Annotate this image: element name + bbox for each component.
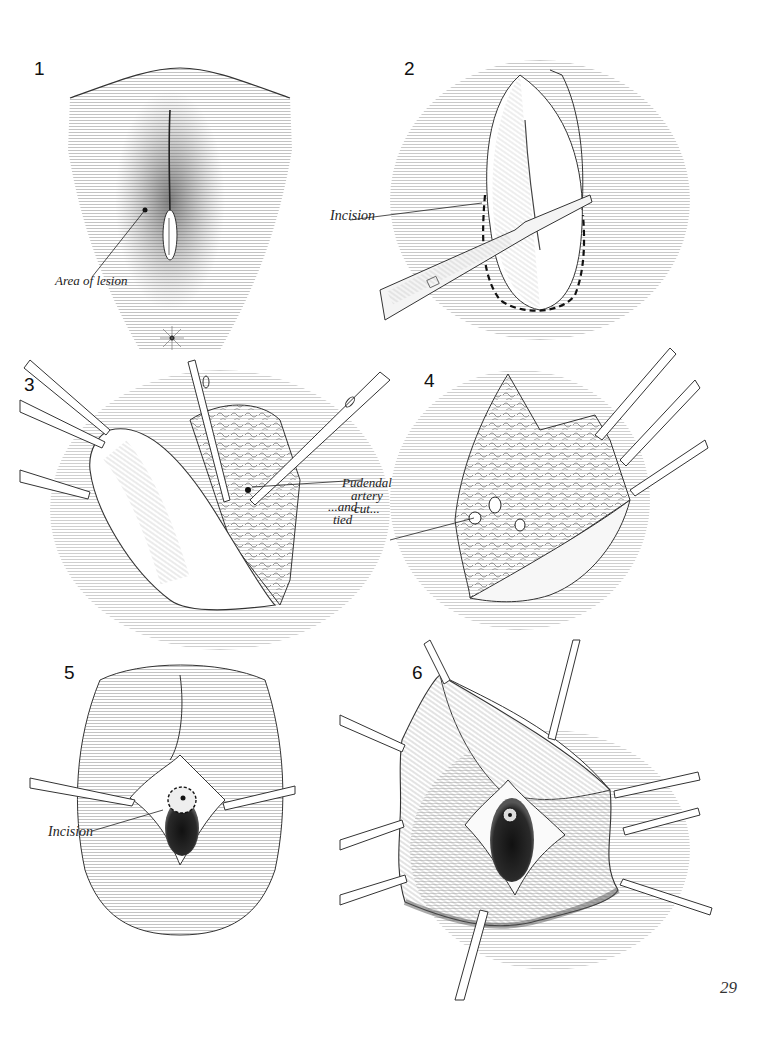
incision-label: Incision	[330, 209, 375, 222]
tied-label: tied	[328, 513, 357, 526]
and-tied-label: ...and tied	[328, 500, 357, 526]
figure-2: 2 Incision	[390, 50, 690, 350]
figure-4: 4 ...and tied	[390, 340, 730, 640]
figure-1: 1 Area of lesion	[30, 50, 330, 350]
ligation-illustration	[390, 340, 730, 640]
figure-5: 5 Incision	[30, 650, 330, 950]
area-of-lesion-label: Area of lesion	[55, 274, 127, 287]
incision-illustration	[390, 50, 690, 350]
perineal-illustration	[30, 650, 330, 950]
figure-6: 6	[340, 640, 740, 1000]
vulva-illustration	[30, 50, 330, 350]
page-number: 29	[720, 978, 737, 998]
incision-label: Incision	[48, 825, 93, 838]
closure-illustration	[340, 640, 740, 1000]
